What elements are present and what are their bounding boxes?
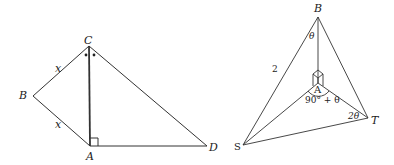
point-label-a2: A bbox=[313, 84, 322, 95]
point-label-t: T bbox=[371, 114, 380, 127]
point-label-b2: B bbox=[313, 2, 322, 15]
side-label-cb: x bbox=[55, 62, 62, 75]
side-label-bs: 2 bbox=[272, 64, 278, 74]
point-label-b: B bbox=[18, 89, 27, 102]
segment-as bbox=[243, 83, 318, 145]
segment-st bbox=[243, 118, 368, 145]
segment-cd bbox=[89, 46, 207, 146]
angle-label-t: 2θ bbox=[347, 111, 360, 121]
segment-bs bbox=[243, 17, 318, 145]
point-label-a: A bbox=[85, 150, 94, 163]
point-label-d: D bbox=[208, 141, 218, 154]
angle-label-b: θ bbox=[309, 31, 315, 41]
segment-ba bbox=[33, 96, 90, 146]
right-figure bbox=[243, 17, 368, 145]
equal-angle-dots-c bbox=[85, 54, 96, 57]
right-angle-mark-a bbox=[90, 138, 98, 146]
geometry-diagram: C B A D x x B A S T 2 θ 90° + θ 2θ bbox=[0, 0, 394, 165]
angle-label-a: 90° + θ bbox=[305, 95, 340, 105]
point-label-s: S bbox=[234, 141, 241, 152]
left-figure bbox=[33, 46, 207, 146]
segment-ca bbox=[89, 46, 90, 146]
point-label-c: C bbox=[84, 34, 93, 47]
side-label-ba: x bbox=[55, 118, 62, 131]
